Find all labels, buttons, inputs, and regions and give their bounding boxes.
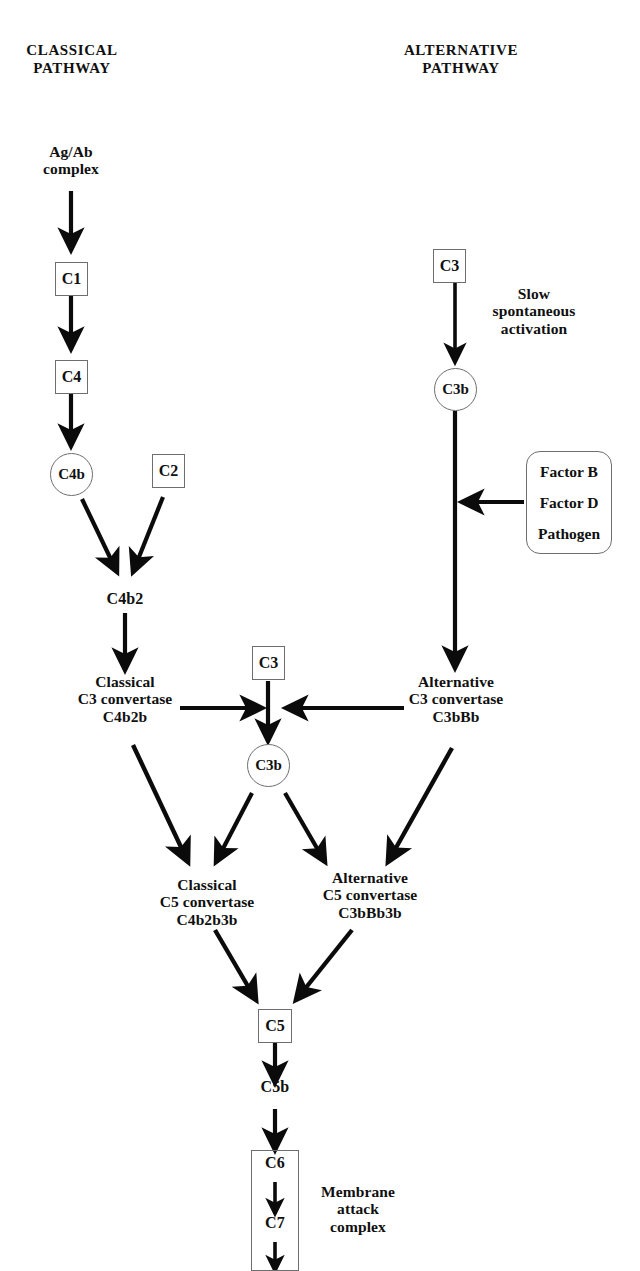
node-c3-middle[interactable]: C3: [252, 646, 285, 680]
label-slow-spontaneous-activation: Slow spontaneous activation: [481, 285, 587, 337]
complement-pathway-diagram: CLASSICAL PATHWAY ALTERNATIVE PATHWAY Ag…: [0, 0, 640, 1271]
arrow-alternative-c3-to-alternative-c5: [388, 748, 452, 862]
header-classical-pathway: CLASSICAL PATHWAY: [16, 42, 128, 77]
node-c2[interactable]: C2: [152, 454, 185, 488]
node-factor-group[interactable]: Factor B Factor D Pathogen: [526, 451, 612, 554]
arrow-alternative-c5-to-c5: [296, 930, 352, 1000]
label-membrane-attack-complex: Membrane attack complex: [306, 1183, 410, 1235]
node-c5[interactable]: C5: [258, 1009, 292, 1043]
node-c6: C6: [240, 1154, 310, 1172]
arrow-classical-c5-to-c5: [215, 930, 256, 1000]
node-alternative-c3-convertase: Alternative C3 convertase C3bBb: [388, 673, 524, 725]
node-classical-c5-convertase: Classical C5 convertase C4b2b3b: [137, 876, 277, 928]
node-c7: C7: [240, 1214, 310, 1232]
arrow-c2-to-c4b2: [133, 497, 163, 572]
factor-b-label: Factor B: [540, 464, 598, 480]
node-c5b: C5b: [240, 1078, 310, 1096]
factor-d-label: Factor D: [540, 495, 599, 511]
header-alternative-pathway: ALTERNATIVE PATHWAY: [392, 42, 530, 77]
arrow-c4b-to-c4b2: [82, 499, 117, 572]
node-classical-c3-convertase: Classical C3 convertase C4b2b: [55, 673, 195, 725]
pathogen-label: Pathogen: [538, 526, 600, 542]
node-ag-ab-complex: Ag/Ab complex: [21, 143, 121, 178]
arrow-c3b-to-classical-c5: [216, 793, 252, 862]
node-c3b-middle[interactable]: C3b: [247, 744, 290, 787]
node-c4b[interactable]: C4b: [50, 453, 93, 496]
node-c3-alternative-top[interactable]: C3: [433, 249, 466, 283]
node-c1[interactable]: C1: [55, 262, 88, 296]
arrow-classical-c3-to-classical-c5: [133, 745, 188, 862]
node-alternative-c5-convertase: Alternative C5 convertase C3bBb3b: [300, 869, 440, 921]
node-c3b-alternative[interactable]: C3b: [434, 368, 477, 411]
arrow-c3b-to-alternative-c5: [285, 793, 325, 862]
arrow-layer: [0, 0, 640, 1271]
node-c4b2: C4b2: [85, 590, 165, 608]
node-c4[interactable]: C4: [55, 360, 88, 394]
